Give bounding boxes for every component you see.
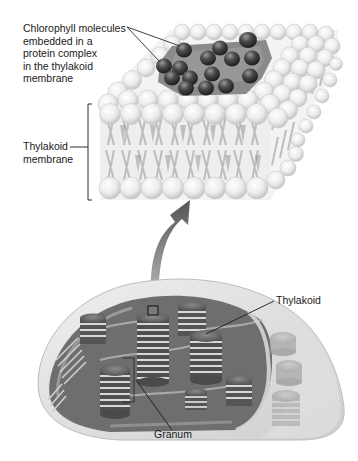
label-chlorophyll-line-1: Chlorophyll molecules [23, 22, 126, 35]
label-chlorophyll-line-4: in the thylakoid [23, 60, 126, 73]
granum-stack-lower-right [226, 375, 252, 406]
label-membrane-line-1: Thylakoid [23, 140, 73, 153]
label-chlorophyll: Chlorophyll molecules embedded in a prot… [23, 22, 126, 85]
granum-stack-upper-left [80, 314, 106, 345]
label-chlorophyll-line-3: protein complex [23, 47, 126, 60]
label-granum: Granum [154, 428, 192, 441]
chloroplast-diagram: Chlorophyll molecules embedded in a prot… [0, 0, 358, 461]
magnify-region-box [148, 306, 158, 315]
label-thylakoid-membrane: Thylakoid membrane [23, 140, 73, 165]
granum-stack-center [137, 313, 169, 387]
membrane-bracket [88, 104, 92, 200]
label-membrane-line-2: membrane [23, 153, 73, 166]
membrane-detail [98, 24, 343, 200]
granum-stack-right [190, 330, 222, 385]
label-chlorophyll-line-5: membrane [23, 72, 126, 85]
granum-stack-bottom [185, 388, 207, 410]
label-chlorophyll-line-2: embedded in a [23, 35, 126, 48]
granum-stack-left [100, 364, 130, 419]
label-thylakoid: Thylakoid [276, 294, 321, 307]
